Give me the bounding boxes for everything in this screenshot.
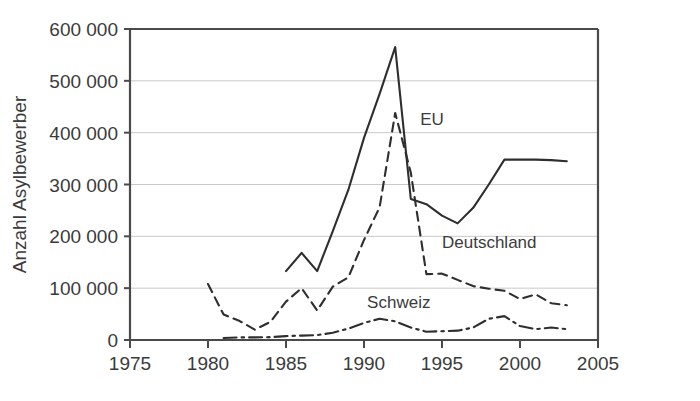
x-tick-label: 1975 xyxy=(109,353,151,374)
series-label-schweiz: Schweiz xyxy=(367,293,430,312)
series-line-schweiz xyxy=(224,316,567,338)
tick-marks-group xyxy=(124,29,598,348)
x-tick-label: 1990 xyxy=(343,353,385,374)
asylum-seekers-line-chart: 0100 000200 000300 000400 000500 000600 … xyxy=(0,0,700,401)
x-tick-label: 1980 xyxy=(187,353,229,374)
series-label-eu: EU xyxy=(420,110,444,129)
x-tick-label: 2000 xyxy=(499,353,541,374)
x-tick-labels-group: 1975198019851990199520002005 xyxy=(109,353,619,374)
y-tick-labels-group: 0100 000200 000300 000400 000500 000600 … xyxy=(49,19,118,351)
y-tick-label: 500 000 xyxy=(49,71,118,92)
y-tick-label: 300 000 xyxy=(49,175,118,196)
y-tick-label: 400 000 xyxy=(49,123,118,144)
series-annotations-group: EUDeutschlandSchweiz xyxy=(367,110,536,312)
y-tick-label: 600 000 xyxy=(49,19,118,40)
x-tick-label: 1985 xyxy=(265,353,307,374)
y-tick-label: 0 xyxy=(107,330,118,351)
x-tick-label: 1995 xyxy=(421,353,463,374)
x-tick-label: 2005 xyxy=(577,353,619,374)
y-tick-label: 100 000 xyxy=(49,278,118,299)
y-axis-title: Anzahl Asylbewerber xyxy=(9,95,30,273)
y-axis-title-group: Anzahl Asylbewerber xyxy=(9,95,30,273)
chart-page: 0100 000200 000300 000400 000500 000600 … xyxy=(0,0,700,401)
series-label-deutschland: Deutschland xyxy=(442,233,537,252)
y-tick-label: 200 000 xyxy=(49,226,118,247)
